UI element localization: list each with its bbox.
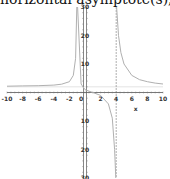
- y-tick-label: 20: [81, 32, 89, 39]
- tick-labels: -10-8-6-4-20246810302010102030x: [2, 3, 168, 179]
- y-tick-label: 10: [81, 117, 89, 124]
- y-tick-label: 30: [81, 174, 89, 179]
- plot-area: -10-8-6-4-20246810302010102030x: [0, 0, 170, 179]
- x-tick-label: 8: [145, 95, 149, 102]
- y-tick-label: 20: [81, 146, 89, 153]
- x-tick-label: -10: [2, 95, 13, 102]
- x-tick-label: -2: [66, 95, 73, 102]
- curve-branch: [117, 7, 163, 84]
- x-tick-label: -8: [19, 95, 26, 102]
- x-tick-label: 0: [79, 95, 83, 102]
- y-tick-label: 30: [81, 3, 89, 10]
- x-axis-label: x: [134, 105, 138, 112]
- x-tick-label: 6: [130, 95, 134, 102]
- y-tick-label: 10: [81, 60, 89, 67]
- curve-branch: [7, 7, 77, 86]
- x-tick-label: -6: [35, 95, 42, 102]
- x-tick-label: 4: [114, 95, 118, 102]
- x-tick-label: -4: [50, 95, 57, 102]
- x-tick-label: 10: [159, 95, 167, 102]
- x-tick-label: 2: [99, 95, 103, 102]
